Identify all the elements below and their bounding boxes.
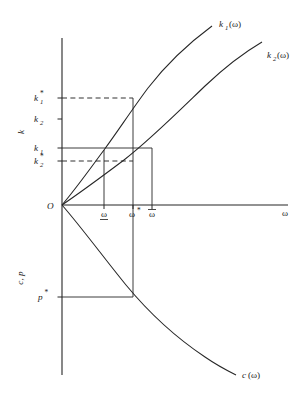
curve-label-k1: k 1 (ω) [219,19,241,31]
curve-label-k2: k 2 (ω) [267,50,289,62]
ytick-label-k2star: k 2 * [34,152,44,168]
economics-diagram: k c, p O ω k 1 * k 2 k 1 k 2 * [0,0,305,397]
ytick-label-k1-base: k [34,143,39,153]
curve-label-k2-arg: (ω) [277,50,289,60]
ytick-label-k1star-star: * [40,89,44,98]
figure-svg: k c, p O ω k 1 * k 2 k 1 k 2 * [0,0,305,397]
ytick-label-k2: k 2 [34,114,44,126]
ytick-label-k1star: k 1 * [34,89,44,105]
curve-label-c: c (ω) [242,370,260,380]
xtick-label-omega-star: ω * [129,206,141,219]
ytick-label-k2star-base: k [34,156,39,166]
y-axis-label-cp: c, p [15,271,25,285]
xtick-label-omega-over-glyph: ω [149,209,155,219]
y-axis-label-k: k [16,129,26,134]
ytick-label-k2-base: k [34,114,39,124]
ytick-label-pstar-star: * [45,288,49,297]
curve-label-c-base: c [242,370,246,380]
curve-k1 [62,26,212,205]
x-axis-label-omega: ω [282,208,288,218]
ytick-label-k1star-sub: 1 [40,98,43,105]
xtick-label-omega-under: ω [100,209,108,220]
ytick-label-k2star-star: * [40,152,44,161]
ytick-label-k1star-base: k [34,93,39,103]
ytick-label-pstar-base: p [37,292,43,302]
curve-label-k1-base: k [219,19,224,29]
curve-label-c-arg: (ω) [248,370,260,380]
ytick-label-pstar: p * [37,288,49,302]
xtick-label-omega-under-glyph: ω [101,209,107,219]
xtick-label-omega-star-glyph: ω [129,209,135,219]
curve-label-k1-sub: 1 [225,24,228,31]
curve-label-k2-base: k [267,50,272,60]
ytick-label-k2-sub: 2 [40,119,44,126]
xtick-label-omega-over: ω [148,209,156,219]
curve-label-k1-arg: (ω) [229,19,241,29]
ytick-label-k2star-sub: 2 [40,161,44,168]
origin-label: O [47,201,54,211]
curve-c [62,205,236,375]
xtick-label-omega-star-mark: * [137,206,141,215]
curve-k2 [62,42,262,205]
